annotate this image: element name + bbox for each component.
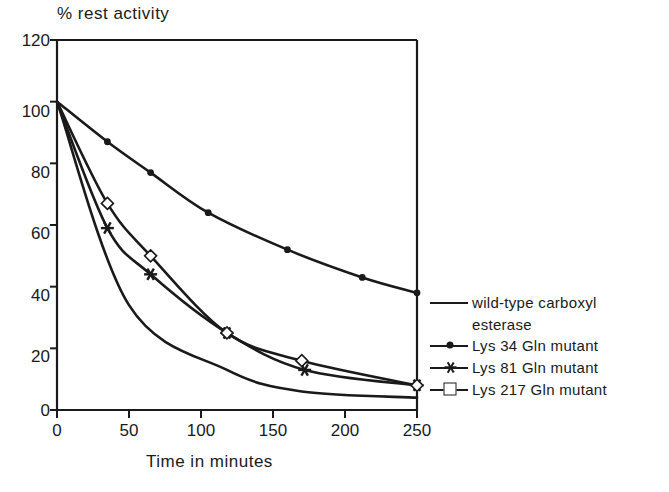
legend-label-wild-type: wild-type carboxyl [472, 292, 597, 313]
legend-key-star-icon [428, 357, 472, 378]
legend-key-line-plain [428, 292, 472, 313]
plot-canvas [0, 0, 669, 492]
data-series-layer [57, 102, 424, 398]
legend-label-lys81: Lys 81 Gln mutant [472, 357, 598, 378]
marker-filled-circle [284, 246, 291, 253]
marker-filled-circle [205, 209, 212, 216]
legend-label-lys34: Lys 34 Gln mutant [472, 335, 598, 356]
legend-item-lys34: Lys 34 Gln mutant [428, 335, 607, 356]
marker-filled-circle [414, 289, 421, 296]
marker-star [101, 222, 114, 233]
marker-filled-circle [359, 274, 366, 281]
axis-frame [57, 40, 417, 410]
marker-open-diamond [411, 379, 423, 391]
legend-key-filled-circle-icon [428, 335, 472, 356]
marker-filled-circle [104, 138, 111, 145]
legend: wild-type carboxyl esterase Lys 34 Gln m… [428, 292, 607, 401]
legend-label-wild-type-cont: esterase [472, 314, 607, 335]
legend-item-lys81: Lys 81 Gln mutant [428, 357, 607, 378]
legend-item-wild-type: wild-type carboxyl [428, 292, 607, 313]
legend-key-open-diamond-icon [428, 379, 472, 400]
marker-open-diamond [296, 355, 308, 367]
marker-open-diamond [101, 197, 113, 209]
marker-filled-circle [147, 169, 154, 176]
legend-item-lys217: Lys 217 Gln mutant [428, 379, 607, 400]
figure-root: % rest activity 120 100 80 60 40 20 0 0 … [0, 0, 669, 492]
legend-label-lys217: Lys 217 Gln mutant [472, 379, 607, 400]
